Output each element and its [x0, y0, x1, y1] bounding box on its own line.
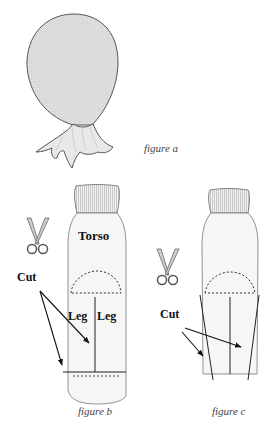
figure-b-tube: [40, 185, 126, 405]
diagram-canvas: [0, 0, 271, 435]
leg-left-label: Leg: [68, 309, 87, 324]
cut-label-c: Cut: [160, 307, 179, 322]
scissors-icon: [27, 218, 49, 254]
figure-b-caption: figure b: [78, 405, 112, 417]
scissors-icon: [157, 249, 179, 285]
figure-c-tube: [182, 189, 259, 381]
leg-right-label: Leg: [97, 309, 116, 324]
cut-label-b: Cut: [17, 270, 36, 285]
figure-a-caption: figure a: [144, 142, 178, 154]
figure-a-head: [27, 14, 118, 168]
figure-c-caption: figure c: [212, 405, 246, 417]
torso-label: Torso: [78, 228, 109, 244]
